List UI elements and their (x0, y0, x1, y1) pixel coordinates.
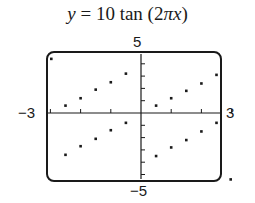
data-point (94, 88, 97, 91)
data-point (110, 129, 113, 132)
data-point (50, 58, 53, 61)
data-point (94, 138, 97, 141)
data-point (125, 122, 128, 125)
data-point (155, 155, 158, 158)
data-point (125, 72, 128, 75)
data-point (200, 82, 203, 85)
window-frame (47, 52, 221, 181)
data-point (155, 104, 158, 107)
data-point (215, 122, 218, 125)
data-point (64, 154, 67, 157)
data-point (64, 104, 67, 107)
plot-area (0, 0, 255, 203)
data-point (185, 139, 188, 142)
data-point (229, 178, 232, 181)
data-point (170, 97, 173, 100)
data-point (110, 81, 113, 84)
data-point (79, 145, 82, 148)
data-point (185, 90, 188, 93)
axes (47, 52, 232, 180)
data-point (79, 97, 82, 100)
data-point (200, 130, 203, 133)
data-point (215, 74, 218, 77)
data-point (170, 146, 173, 149)
